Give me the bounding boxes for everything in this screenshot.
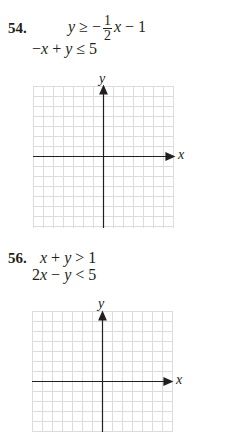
graph-56-coordinate-grid (0, 0, 246, 432)
graph-56-x-label: x (176, 372, 182, 388)
graph-56-y-arrow-icon (99, 312, 106, 320)
graph-56-x-arrow-icon (164, 378, 172, 385)
